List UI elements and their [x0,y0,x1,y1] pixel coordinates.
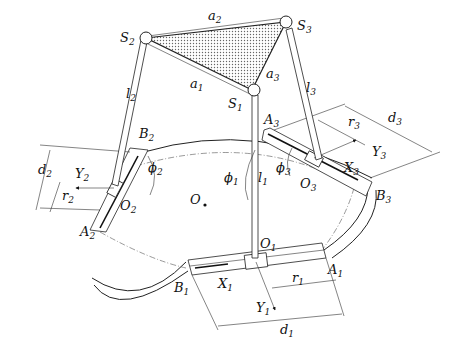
label-A1: A1 [327,262,343,279]
label-S3: S3 [297,18,312,35]
label-d1: d1 [280,322,294,339]
label-A3: A3 [263,112,279,129]
label-Y1: Y1 [256,300,270,317]
label-Y3: Y3 [372,144,387,161]
label-r3: r3 [348,114,360,131]
label-X1: X1 [217,276,233,293]
label-d3: d3 [388,110,402,127]
label-phi3: ϕ3 [276,160,291,177]
label-O2: O2 [120,198,137,215]
label-B3: B3 [375,188,392,205]
label-S1: S1 [228,96,243,113]
label-phi1: ϕ1 [224,170,239,187]
label-O1: O1 [260,236,276,253]
label-r2: r2 [62,188,74,205]
label-d2: d2 [38,162,52,179]
guide-2 [36,145,155,232]
label-O3: O3 [300,176,317,193]
label-Y2: Y2 [75,166,90,183]
label-O: O [190,192,201,207]
label-B1: B1 [173,280,189,297]
moving-platform [140,16,292,96]
label-a2: a2 [208,8,222,25]
label-B2: B2 [138,126,155,143]
label-a1: a1 [190,76,204,93]
mechanism-diagram: S2 S3 S1 a2 a1 a3 l2 l3 l1 O ϕ1 O1 A1 B1… [0,0,463,353]
label-X3: X3 [343,160,359,177]
label-S2: S2 [120,30,135,47]
label-a3: a3 [266,66,280,83]
label-phi2: ϕ2 [148,160,163,177]
label-l3: l3 [306,80,316,97]
base-center-dot [203,203,206,206]
label-l1: l1 [258,170,268,187]
label-r1: r1 [292,270,304,287]
